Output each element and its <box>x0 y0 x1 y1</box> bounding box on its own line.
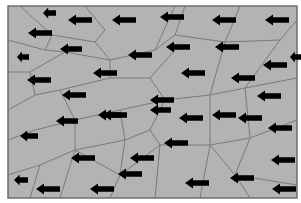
voronoi-vector-field-diagram <box>0 0 301 203</box>
